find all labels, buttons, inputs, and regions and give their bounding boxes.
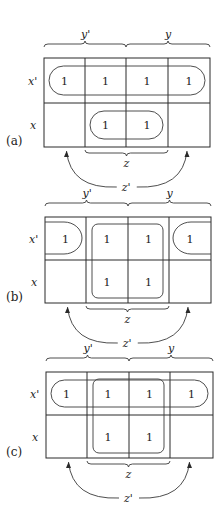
karnaugh-maps-canvas: y'yx'x(a)111111zz'y'yx'x(b)111111zz'y'yx… (0, 0, 224, 519)
y-label: y (164, 28, 172, 41)
cell-value: 1 (102, 119, 109, 132)
y-brace (126, 41, 210, 47)
kmap-c: y'yx'x(c)111111zz' (6, 342, 213, 505)
z-label: z (125, 468, 132, 481)
row-label-x-prime: x' (29, 233, 38, 246)
cell-value: 1 (61, 75, 68, 88)
arrowhead-icon (65, 307, 70, 313)
cell-value: 1 (105, 431, 112, 444)
arrowhead-icon (64, 151, 69, 157)
z-label: z (124, 313, 131, 326)
cell-value: 1 (146, 388, 153, 401)
karnaugh-maps-figure: y'yx'x(a)111111zz'y'yx'x(b)111111zz'y'yx… (0, 0, 224, 519)
row-label-x: x (30, 119, 37, 132)
cell-value: 1 (146, 431, 153, 444)
y-prime-label: y' (83, 342, 93, 355)
cell-value: 1 (187, 233, 194, 246)
cell-value: 1 (104, 276, 111, 289)
z-prime-label: z' (122, 337, 132, 350)
z-prime-label: z' (121, 181, 131, 194)
cell-value: 1 (144, 119, 151, 132)
cell-value: 1 (104, 233, 111, 246)
cell-value: 1 (145, 276, 152, 289)
cell-value: 1 (188, 388, 195, 401)
cell-value: 1 (186, 75, 193, 88)
cell-value: 1 (144, 75, 151, 88)
z-prime-arc-left (67, 151, 117, 187)
y-label: y (166, 187, 174, 200)
cell-value: 1 (102, 75, 109, 88)
z-prime-label: z' (123, 492, 133, 505)
y-brace (129, 355, 213, 361)
z-prime-arc-right (139, 462, 190, 498)
y-prime-label: y' (80, 28, 90, 41)
row-label-x-prime: x' (30, 388, 39, 401)
y-prime-brace (46, 355, 129, 361)
panel-label-b: (b) (6, 290, 23, 304)
panel-label-a: (a) (6, 134, 23, 148)
y-label: y (167, 342, 175, 355)
cell-value: 1 (145, 233, 152, 246)
arrowhead-icon (66, 462, 71, 468)
arrowhead-icon (187, 462, 192, 468)
y-prime-brace (45, 200, 128, 206)
row-label-x-prime: x' (28, 75, 37, 88)
y-prime-brace (44, 41, 126, 47)
cell-value: 1 (105, 388, 112, 401)
y-prime-label: y' (82, 187, 92, 200)
z-brace (87, 461, 170, 467)
z-prime-arc-left (69, 462, 120, 498)
kmap-a: y'yx'x(a)111111zz' (6, 28, 210, 194)
cell-value: 1 (62, 233, 69, 246)
arrowhead-icon (185, 151, 190, 157)
z-brace (86, 306, 169, 312)
kmap-b: y'yx'x(b)111111zz' (6, 187, 211, 350)
z-prime-arc-left (68, 307, 118, 343)
panel-label-c: (c) (6, 445, 22, 459)
z-prime-arc-right (138, 307, 188, 343)
row-label-x: x (31, 276, 38, 289)
z-prime-arc-right (137, 151, 187, 187)
z-label: z (123, 157, 130, 170)
cell-value: 1 (63, 388, 70, 401)
row-label-x: x (32, 431, 39, 444)
z-brace (85, 150, 168, 156)
grouping-loop (49, 66, 205, 95)
y-brace (128, 200, 211, 206)
arrowhead-icon (186, 307, 191, 313)
